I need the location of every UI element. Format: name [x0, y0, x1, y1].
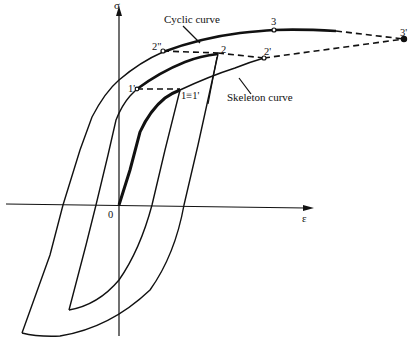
origin-label: 0 — [108, 209, 113, 220]
epsilon-axis — [6, 204, 306, 208]
point-label-2: 2 — [221, 44, 226, 55]
point-label-2dd: 2" — [152, 41, 162, 52]
skeleton-curve-label: Skeleton curve — [227, 91, 293, 103]
point-markers — [135, 28, 406, 91]
initial-loading-curve — [119, 90, 180, 205]
dashed-connectors — [137, 31, 404, 89]
marker-3 — [272, 28, 276, 32]
dash-2dd-to-2 — [163, 51, 218, 53]
marker-1prime — [135, 87, 139, 91]
cyclic-curve-label: Cyclic curve — [164, 13, 220, 25]
point-label-1eq1prime: 1≡1' — [181, 90, 199, 101]
sigma-axis-label: σ — [114, 0, 120, 11]
point-label-3: 3 — [271, 16, 276, 27]
skeleton-curve-leader-2 — [208, 57, 217, 104]
cyclic-curve — [163, 30, 336, 52]
marker-2dd — [161, 49, 165, 53]
cyclic-curve-leader — [183, 26, 200, 43]
dash-3-to-3prime — [336, 31, 404, 39]
point-label-2prime: 2' — [264, 46, 271, 57]
point-label-3prime: 3' — [400, 27, 407, 38]
skeleton-curve — [180, 58, 264, 90]
epsilon-axis-arrow-icon — [303, 205, 314, 211]
inner-hysteresis-loop — [69, 89, 180, 310]
point-label-1prime: 1' — [128, 83, 135, 94]
hysteresis-figure: σ ε 0 Cyclic curve Skeleton curve 2" 2 2… — [0, 0, 413, 341]
dash-2prime-to-3prime — [264, 39, 404, 58]
epsilon-axis-label: ε — [302, 212, 307, 224]
